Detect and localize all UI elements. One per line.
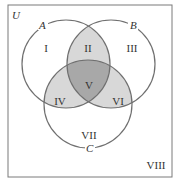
region-vii-label: VII bbox=[81, 129, 97, 141]
set-c-label: C bbox=[86, 142, 94, 154]
region-viii-label: VIII bbox=[147, 159, 166, 171]
region-ii-label: II bbox=[84, 42, 92, 54]
set-b-label: B bbox=[130, 19, 137, 31]
region-i-label: I bbox=[44, 42, 48, 54]
set-a-label: A bbox=[38, 19, 46, 31]
venn-diagram: U A B C I II III IV V VI VII VIII bbox=[0, 0, 178, 185]
region-iii-label: III bbox=[127, 42, 138, 54]
region-iv-label: IV bbox=[54, 95, 66, 107]
region-vi-label: VI bbox=[112, 95, 124, 107]
venn-svg: U A B C I II III IV V VI VII VIII bbox=[0, 0, 178, 185]
universe-label: U bbox=[12, 9, 21, 21]
region-v-label: V bbox=[85, 79, 93, 91]
